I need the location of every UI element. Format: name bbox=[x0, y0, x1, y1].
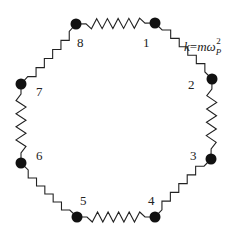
omega-subscript: P bbox=[215, 47, 222, 57]
equals-sign: = bbox=[190, 39, 197, 54]
m-symbol: m bbox=[197, 39, 206, 54]
spring-5-6 bbox=[21, 163, 77, 217]
spring-ring-diagram: 12345678 k=mωP2 bbox=[0, 0, 245, 242]
mass-7 bbox=[16, 79, 27, 90]
mass-5 bbox=[72, 212, 83, 223]
spring-2-3 bbox=[206, 79, 216, 159]
mass-3 bbox=[206, 154, 217, 165]
mass-6 bbox=[16, 158, 27, 169]
mass-label-6: 6 bbox=[36, 148, 43, 163]
spring-7-8 bbox=[21, 24, 76, 84]
mass-2 bbox=[207, 74, 218, 85]
mass-label-2: 2 bbox=[188, 77, 195, 92]
labels-group: 12345678 bbox=[36, 35, 197, 208]
spring-6-7 bbox=[16, 84, 26, 163]
mass-label-5: 5 bbox=[80, 193, 87, 208]
mass-4 bbox=[150, 212, 161, 223]
omega-symbol: ω bbox=[207, 39, 216, 54]
mass-label-3: 3 bbox=[190, 148, 197, 163]
spring-constant-label: k=mωP2 bbox=[184, 36, 222, 57]
mass-label-7: 7 bbox=[36, 84, 43, 99]
spring-3-4 bbox=[155, 159, 211, 217]
omega-superscript: 2 bbox=[216, 36, 221, 46]
spring-4-5 bbox=[77, 212, 155, 222]
mass-1 bbox=[150, 18, 161, 29]
mass-label-4: 4 bbox=[148, 193, 155, 208]
mass-label-1: 1 bbox=[143, 35, 150, 50]
mass-8 bbox=[71, 19, 82, 30]
mass-label-8: 8 bbox=[77, 35, 84, 50]
spring-8-1 bbox=[76, 18, 155, 29]
